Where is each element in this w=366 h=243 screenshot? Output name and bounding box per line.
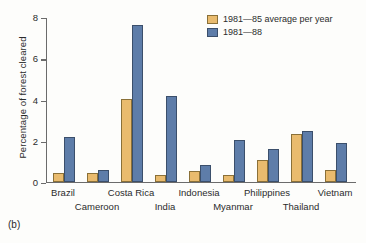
x-axis-label-india: India bbox=[155, 201, 176, 212]
bar-indonesia-series1 bbox=[189, 171, 200, 181]
x-axis-line bbox=[46, 182, 356, 183]
bar-myanmar-series2 bbox=[234, 140, 245, 181]
forest-clearing-bar-chart: Percentage of forest cleared 02468 Brazi… bbox=[0, 0, 366, 243]
bar-group-thailand bbox=[291, 131, 313, 182]
bar-cameroon-series1 bbox=[87, 173, 98, 181]
x-axis-label-myanmar: Myanmar bbox=[213, 201, 253, 212]
legend-entry-1: 1981—85 average per year bbox=[207, 14, 333, 24]
bar-group-cameroon bbox=[87, 170, 109, 181]
y-tick-label: 2 bbox=[33, 137, 38, 147]
y-tick-mark bbox=[41, 59, 46, 60]
bar-india-series1 bbox=[155, 175, 166, 181]
x-axis-label-philippines: Philippines bbox=[244, 187, 290, 198]
legend-swatch-1981-85 bbox=[207, 15, 218, 24]
bar-brazil-series2 bbox=[64, 137, 75, 181]
y-tick-mark bbox=[41, 101, 46, 102]
bar-group-indonesia bbox=[189, 165, 211, 182]
y-tick-label: 8 bbox=[33, 13, 38, 23]
legend-swatch-1981-88 bbox=[207, 28, 218, 37]
x-axis-label-thailand: Thailand bbox=[283, 201, 319, 212]
x-axis-label-brazil: Brazil bbox=[51, 187, 75, 198]
bars-container bbox=[47, 18, 352, 182]
bar-vietnam-series2 bbox=[336, 143, 347, 181]
y-tick-mark bbox=[41, 142, 46, 143]
legend-label: 1981—88 bbox=[223, 27, 262, 37]
bar-thailand-series1 bbox=[291, 134, 302, 181]
bar-group-india bbox=[155, 96, 177, 182]
x-axis-label-costa-rica: Costa Rica bbox=[108, 187, 154, 198]
y-axis-title: Percentage of forest cleared bbox=[17, 23, 28, 173]
bar-indonesia-series2 bbox=[200, 165, 211, 182]
bar-costa-rica-series1 bbox=[121, 99, 132, 182]
figure-caption: (b) bbox=[8, 219, 20, 230]
bar-thailand-series2 bbox=[302, 131, 313, 182]
bar-philippines-series1 bbox=[257, 160, 268, 182]
bar-philippines-series2 bbox=[268, 149, 279, 182]
bar-group-brazil bbox=[53, 137, 75, 181]
bar-costa-rica-series2 bbox=[132, 25, 143, 182]
x-axis-label-vietnam: Vietnam bbox=[318, 187, 353, 198]
bar-group-vietnam bbox=[325, 143, 347, 181]
bar-myanmar-series1 bbox=[223, 175, 234, 181]
y-tick-label: 0 bbox=[33, 178, 38, 188]
bar-cameroon-series2 bbox=[98, 170, 109, 181]
y-tick-mark bbox=[41, 183, 46, 184]
x-axis-label-cameroon: Cameroon bbox=[75, 201, 119, 212]
bar-group-costa-rica bbox=[121, 25, 143, 182]
x-axis-label-indonesia: Indonesia bbox=[178, 187, 219, 198]
plot-area: 02468 bbox=[46, 18, 352, 183]
bar-group-philippines bbox=[257, 149, 279, 182]
bar-group-myanmar bbox=[223, 140, 245, 181]
chart-legend: 1981—85 average per year1981—88 bbox=[207, 14, 333, 37]
y-tick-label: 4 bbox=[33, 96, 38, 106]
bar-india-series2 bbox=[166, 96, 177, 182]
legend-entry-2: 1981—88 bbox=[207, 27, 333, 37]
bar-vietnam-series1 bbox=[325, 170, 336, 181]
bar-brazil-series1 bbox=[53, 173, 64, 181]
y-tick-label: 6 bbox=[33, 55, 38, 65]
legend-label: 1981—85 average per year bbox=[223, 14, 333, 24]
y-tick-mark bbox=[41, 18, 46, 19]
